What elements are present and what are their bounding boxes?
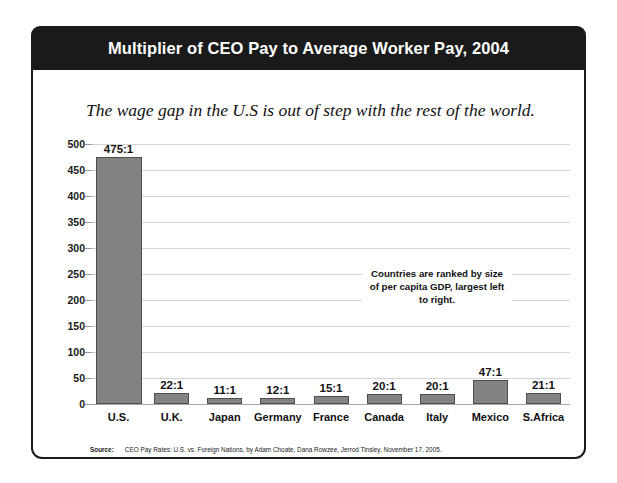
y-axis-tick-mark: [85, 352, 92, 353]
bar-value-label: 15:1: [319, 382, 342, 394]
y-axis-tick-label: 150: [67, 320, 85, 332]
source-text: CEO Pay Rates: U.S. vs. Foreign Nations,…: [125, 446, 442, 453]
y-axis-tick-label: 100: [67, 346, 85, 358]
source-label: Source:: [90, 446, 114, 453]
y-axis-tick-label: 350: [67, 216, 85, 228]
x-axis-category-label: Germany: [254, 411, 302, 423]
x-axis-category-label: Italy: [426, 411, 448, 423]
x-axis-category-label: Mexico: [472, 411, 509, 423]
y-axis-tick-label: 200: [67, 294, 85, 306]
x-axis-category-label: France: [313, 411, 349, 423]
chart-subtitle: The wage gap in the U.S is out of step w…: [33, 100, 588, 121]
y-axis-tick-label: 450: [67, 164, 85, 176]
y-axis-tick-mark: [85, 222, 92, 223]
bar-france[interactable]: 15:1France: [314, 396, 349, 404]
bar-canada[interactable]: 20:1Canada: [367, 394, 402, 404]
y-axis-tick-mark: [85, 170, 92, 171]
gridline: [92, 222, 570, 223]
bar-japan[interactable]: 11:1Japan: [207, 398, 242, 404]
bar-uk[interactable]: 22:1U.K.: [154, 393, 189, 404]
y-axis-tick-mark: [85, 248, 92, 249]
gridline: [92, 326, 570, 327]
bar-germany[interactable]: 12:1Germany: [260, 398, 295, 404]
x-axis-category-label: Canada: [364, 411, 404, 423]
x-axis-category-label: Japan: [209, 411, 241, 423]
y-axis-tick-label: 400: [67, 190, 85, 202]
x-axis-category-label: U.S.: [108, 411, 129, 423]
gridline: [92, 404, 570, 405]
y-axis-tick-mark: [85, 274, 92, 275]
bar-value-label: 21:1: [532, 379, 555, 391]
infographic-poster: Multiplier of CEO Pay to Average Worker …: [31, 26, 586, 459]
y-axis-tick-label: 50: [73, 372, 85, 384]
gridline: [92, 144, 570, 145]
gridline: [92, 352, 570, 353]
bar-safrica[interactable]: 21:1S.Africa: [526, 393, 561, 404]
y-axis-tick-label: 250: [67, 268, 85, 280]
source-note: Source:CEO Pay Rates: U.S. vs. Foreign N…: [90, 446, 580, 453]
x-axis-category-label: S.Africa: [523, 411, 565, 423]
x-axis-category-label: U.K.: [161, 411, 183, 423]
y-axis-tick-label: 500: [67, 138, 85, 150]
y-axis-tick-mark: [85, 404, 92, 405]
bar-mexico[interactable]: 47:1Mexico: [473, 380, 508, 404]
bar-chart: 050100150200250300350400450500475:1U.S.2…: [54, 136, 570, 436]
bar-italy[interactable]: 20:1Italy: [420, 394, 455, 404]
gridline: [92, 248, 570, 249]
gridline: [92, 170, 570, 171]
y-axis-tick-mark: [85, 378, 92, 379]
bar-value-label: 20:1: [426, 380, 449, 392]
y-axis-tick-mark: [85, 196, 92, 197]
bar-value-label: 11:1: [214, 384, 236, 396]
chart-annotation: Countries are ranked by size of per capi…: [362, 266, 512, 307]
bar-value-label: 22:1: [160, 379, 183, 391]
y-axis-tick-mark: [85, 326, 92, 327]
y-axis-tick-label: 300: [67, 242, 85, 254]
bar-value-label: 475:1: [104, 143, 133, 155]
title-banner: Multiplier of CEO Pay to Average Worker …: [31, 26, 586, 70]
y-axis-tick-mark: [85, 144, 92, 145]
bar-value-label: 20:1: [373, 380, 396, 392]
bar-us[interactable]: 475:1U.S.: [96, 157, 142, 404]
y-axis-tick-label: 0: [79, 398, 85, 410]
chart-panel: The wage gap in the U.S is out of step w…: [31, 70, 586, 459]
bar-value-label: 12:1: [266, 384, 289, 396]
gridline: [92, 196, 570, 197]
bar-value-label: 47:1: [479, 366, 502, 378]
page-title: Multiplier of CEO Pay to Average Worker …: [108, 39, 509, 58]
y-axis-tick-mark: [85, 300, 92, 301]
